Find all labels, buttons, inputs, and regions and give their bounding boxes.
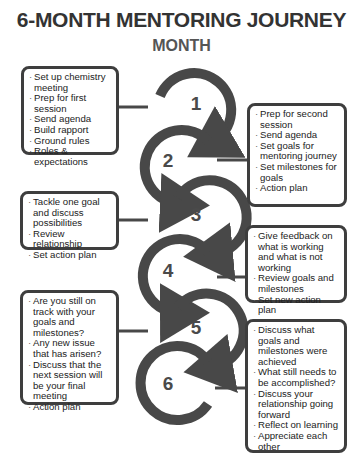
month-4-box: Give feedback on what is working and wha… [245,225,347,303]
month-3-box: Tackle one goal and discuss possibilitie… [20,191,119,250]
month-number-6: 6 [153,373,183,395]
month-2-item: Action plan [255,183,340,194]
month-1-item: Build rapport [29,125,112,136]
month-number-4: 4 [153,260,183,282]
month-number-5: 5 [181,317,211,339]
month-2-item: Prep for second session [255,109,340,130]
month-2-box: Prep for second session Send agenda Set … [247,103,347,207]
month-3-item: Set action plan [28,250,112,261]
month-3-item: Tackle one goal and discuss possibilitie… [28,197,112,229]
month-number-3: 3 [181,204,211,226]
month-5-item: Any new issue that has arisen? [28,338,112,359]
month-1-item: Roles & expectations [29,146,112,167]
month-6-item: Appreciate each other [253,431,340,452]
month-2-item: Set milestones for goals [255,162,340,183]
month-3-item: Review relationship [28,229,112,250]
month-6-item: What still needs to be accomplished? [253,367,340,388]
month-1-box: Set up chemistry meeting Prep for first … [21,66,119,155]
month-2-item: Set goals for mentoring journey [255,141,340,162]
month-number-2: 2 [153,150,183,172]
month-5-item: Discuss that the next session will be yo… [28,360,112,402]
month-4-item: Set new action plan [253,295,340,316]
month-6-box: Discuss what goals and milestones were a… [245,319,347,453]
month-6-item: Discuss what goals and milestones were a… [253,325,340,367]
month-1-item: Set up chemistry meeting [29,72,112,93]
month-5-item: Action plan [28,402,112,413]
month-4-item: Give feedback on what is working and wha… [253,231,340,273]
month-number-1: 1 [181,93,211,115]
month-1-item: Prep for first session [29,93,112,114]
month-6-item: Discuss your relationship going forward [253,389,340,421]
month-5-item: Are you still on track with your goals a… [28,296,112,338]
month-4-item: Review goals and milestones [253,273,340,294]
month-5-box: Are you still on track with your goals a… [20,290,119,405]
